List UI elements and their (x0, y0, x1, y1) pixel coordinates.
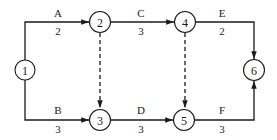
node-5-label: 5 (181, 114, 187, 128)
activity-d-name: D (137, 104, 145, 116)
activity-a-duration: 2 (55, 25, 61, 37)
node-3: 3 (90, 110, 111, 131)
node-2: 2 (90, 12, 111, 33)
activity-a: A 2 (25, 7, 89, 60)
activity-c-duration: 3 (138, 25, 144, 37)
node-5: 5 (174, 110, 195, 131)
activity-f-duration: 3 (219, 123, 225, 135)
activity-f-name: F (219, 104, 225, 116)
activity-c: C 3 (111, 7, 174, 37)
activity-b-name: B (54, 104, 61, 116)
activity-e-name: E (219, 7, 226, 19)
activity-e-duration: 2 (219, 25, 225, 37)
activity-a-name: A (54, 7, 62, 19)
node-4: 4 (175, 12, 196, 33)
arrow-e (196, 22, 254, 59)
activity-e: E 2 (196, 7, 254, 59)
node-1-label: 1 (22, 64, 28, 78)
activity-d-duration: 3 (138, 123, 144, 135)
activity-c-name: C (137, 7, 144, 19)
node-2-label: 2 (97, 16, 103, 30)
node-4-label: 4 (182, 16, 188, 30)
node-6: 6 (244, 60, 265, 81)
activity-b: B 3 (25, 80, 89, 135)
node-3-label: 3 (97, 114, 103, 128)
activity-b-duration: 3 (55, 123, 61, 135)
network-diagram: A 2 B 3 C 3 D 3 E 2 F 3 1 2 (0, 0, 277, 140)
activity-f: F 3 (195, 81, 254, 135)
activity-d: D 3 (111, 104, 173, 135)
node-6-label: 6 (251, 64, 257, 78)
node-1: 1 (15, 60, 35, 80)
